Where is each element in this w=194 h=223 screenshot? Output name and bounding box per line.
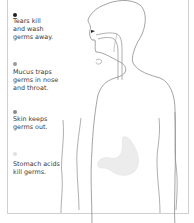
label-line: germs out. [13,123,75,131]
bullet-dot-skin [13,110,17,114]
arm-line-left [157,118,160,213]
arm-line-left-outer [77,118,81,210]
eye-icon [91,30,95,33]
label-line: germs away. [13,33,75,41]
label-line: Mucus traps [13,68,75,76]
bullet-dot-mucus [13,62,17,66]
label-tears: Tears kill and wash germs away. [13,17,75,41]
label-line: Tears kill [13,17,75,25]
label-line: Stomach acids [13,160,75,168]
label-line: kill germs. [13,168,75,176]
label-mucus: Mucus traps germs in nose and throat. [13,68,75,92]
arm-line-right [175,112,177,210]
label-stomach: Stomach acids kill germs. [13,160,75,176]
label-skin: Skin keeps germs out. [13,115,75,131]
label-line: and wash [13,25,75,33]
stomach-icon [98,137,139,175]
label-line: and throat. [13,84,75,92]
label-line: Skin keeps [13,115,75,123]
bullet-dot-stomach [13,152,17,156]
mouth-outline [96,59,102,64]
label-line: germs in nose [13,76,75,84]
